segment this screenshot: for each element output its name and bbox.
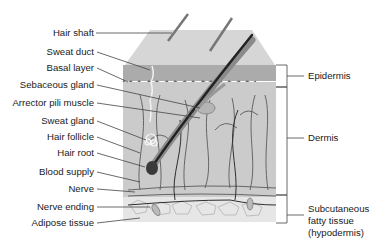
label-blood-supply: Blood supply [39, 166, 94, 177]
label-hair-shaft: Hair shaft [53, 27, 94, 38]
label-subcutaneous-line3: (hypodermis) [308, 227, 364, 238]
label-subcutaneous-line1: Subcutaneous [308, 203, 369, 214]
hair-root [146, 161, 158, 175]
label-sweat-gland: Sweat gland [41, 115, 94, 126]
label-basal-layer: Basal layer [47, 62, 94, 73]
nerve-ending-right [247, 198, 253, 210]
label-nerve: Nerve [68, 183, 94, 194]
label-nerve-ending: Nerve ending [37, 201, 94, 212]
label-hair-follicle: Hair follicle [47, 131, 94, 142]
label-sebaceous-gland: Sebaceous gland [20, 79, 94, 90]
label-hair-root: Hair root [57, 147, 94, 158]
epidermis-layer [123, 65, 276, 81]
label-subcutaneous-line2: fatty tissue [308, 215, 354, 226]
right-brackets [276, 65, 304, 223]
label-adipose-tissue: Adipose tissue [32, 217, 94, 228]
label-epidermis: Epidermis [308, 70, 351, 81]
label-arrector-pili: Arrector pili muscle [12, 97, 94, 108]
label-dermis: Dermis [308, 132, 338, 143]
label-sweat-duct: Sweat duct [47, 46, 94, 57]
